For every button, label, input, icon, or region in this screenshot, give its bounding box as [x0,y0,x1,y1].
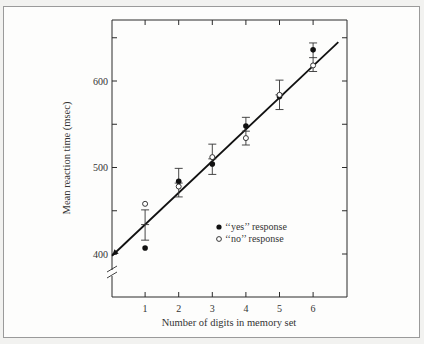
yes-response-point [243,123,249,129]
legend-no-label: ‘‘no’’ response [225,233,284,244]
no-response-point [243,136,248,141]
x-tick-label: 3 [210,303,215,314]
no-response-point [210,155,215,160]
y-tick-label: 400 [93,249,108,260]
y-axis-title: Mean reaction time (msec) [61,101,73,214]
x-tick-label: 6 [311,303,316,314]
no-response-point [311,63,316,68]
x-tick-label: 1 [143,303,148,314]
chart: 400500600123456 ‘‘yes’’ response ‘‘no’’ … [0,0,424,344]
yes-response-point [142,245,148,251]
x-tick-label: 5 [277,303,282,314]
no-response-point [143,201,148,206]
y-tick-label: 600 [93,76,108,87]
x-axis-title: Number of digits in memory set [162,317,297,328]
y-tick-label: 500 [93,162,108,173]
axes: 400500600123456 [93,20,347,314]
no-response-point [176,184,181,189]
legend-yes-label: ‘‘yes’’ response [225,221,287,232]
yes-response-point [310,47,316,53]
legend-yes-marker [216,224,221,229]
legend-no-marker [217,237,222,242]
x-tick-label: 2 [176,303,181,314]
x-tick-label: 4 [243,303,248,314]
legend: ‘‘yes’’ response ‘‘no’’ response [216,221,287,244]
yes-response-point [210,161,216,167]
no-response-point [277,92,282,97]
yes-response-point [176,179,182,185]
